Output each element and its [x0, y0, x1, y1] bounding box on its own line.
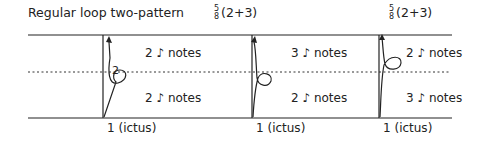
pattern1-upper-label: 2 ♪ notes — [145, 47, 201, 59]
pattern2-upper-label: 3 ♪ notes — [291, 47, 347, 59]
pattern2-lower-label: 2 ♪ notes — [291, 92, 347, 104]
loop-label: 2 — [112, 65, 119, 76]
arrowhead-icon — [106, 36, 112, 43]
pattern1-downbeat: 1 (ictus) — [107, 122, 156, 134]
pattern1-lower-label: 2 ♪ notes — [145, 92, 201, 104]
pattern3-downbeat: 1 (ictus) — [383, 122, 432, 134]
beat-path-3 — [379, 34, 401, 117]
pattern3-upper-label: 2 ♪ notes — [406, 47, 462, 59]
pattern3-lower-label: 3 ♪ notes — [406, 92, 462, 104]
beat-path-2 — [251, 36, 271, 117]
pattern2-downbeat: 1 (ictus) — [256, 122, 305, 134]
